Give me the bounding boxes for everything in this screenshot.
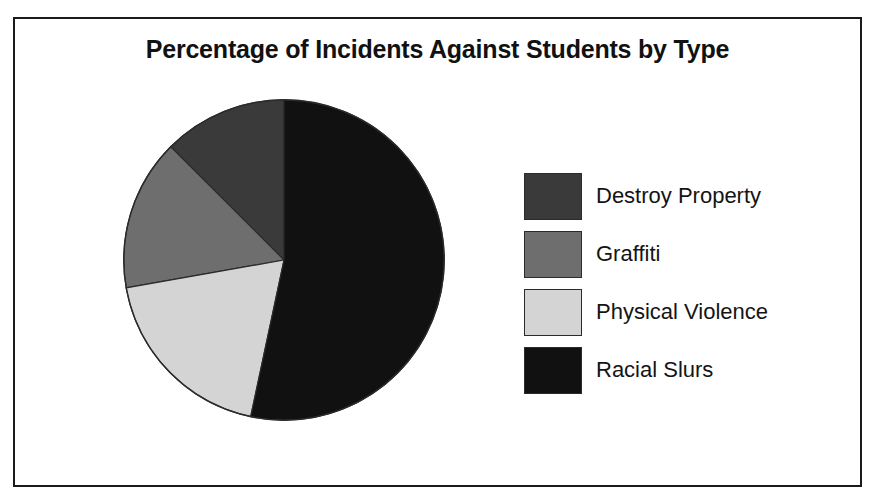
legend-item-label: Graffiti [596, 241, 660, 267]
legend-item[interactable]: Graffiti [524, 225, 834, 283]
legend-item[interactable]: Physical Violence [524, 283, 834, 341]
legend-item[interactable]: Racial Slurs [524, 341, 834, 399]
legend-color-swatch [524, 289, 582, 336]
legend-item-label: Destroy Property [596, 183, 761, 209]
pie-chart-svg [123, 99, 445, 421]
pie-chart [123, 99, 445, 421]
legend-item-label: Physical Violence [596, 299, 768, 325]
chart-frame: Percentage of Incidents Against Students… [13, 17, 862, 487]
chart-legend: Destroy PropertyGraffitiPhysical Violenc… [524, 167, 834, 399]
legend-item[interactable]: Destroy Property [524, 167, 834, 225]
legend-color-swatch [524, 347, 582, 394]
legend-item-label: Racial Slurs [596, 357, 713, 383]
legend-color-swatch [524, 231, 582, 278]
pie-slice-group [124, 100, 444, 420]
page-title: Percentage of Incidents Against Students… [15, 35, 860, 64]
legend-color-swatch [524, 173, 582, 220]
